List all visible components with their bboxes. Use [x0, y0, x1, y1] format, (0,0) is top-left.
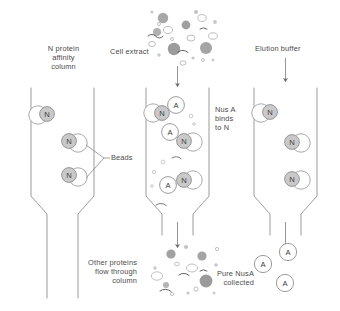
svg-text:N: N	[44, 110, 49, 119]
bead-nusa-complex: N A	[160, 171, 203, 194]
nusa-molecule: A	[254, 255, 271, 272]
collected-nusa-particles: A A A	[254, 243, 296, 291]
nusa-molecule: A	[276, 274, 293, 291]
cell-extract-particles	[148, 10, 217, 65]
column3-title-label: Elution buffer	[255, 44, 335, 53]
column1-title-label: N protein affinity column	[16, 44, 111, 72]
bead-unit: N	[285, 134, 311, 152]
svg-text:N: N	[289, 175, 294, 184]
svg-text:N: N	[66, 137, 71, 146]
svg-text:N: N	[66, 171, 71, 180]
svg-text:N: N	[181, 176, 186, 185]
bead-nusa-complex: N A	[144, 97, 185, 123]
svg-text:N: N	[267, 108, 272, 117]
svg-text:N: N	[289, 138, 294, 147]
collected-label: Pure NusA collected	[188, 269, 254, 287]
bead-unit: N	[62, 168, 88, 187]
column2-beads-with-nusa: N A N A N A	[144, 97, 202, 206]
diagram-canvas: N N N N A N	[0, 0, 340, 311]
beads-label: Beads	[111, 153, 155, 162]
column2-title-label: Cell extract	[110, 47, 170, 56]
bead-unit: N	[29, 106, 55, 124]
svg-text:N: N	[181, 137, 186, 146]
bead-unit: N	[62, 134, 88, 153]
bead-unit: N	[285, 171, 311, 189]
beads-leader-lines	[86, 145, 110, 178]
svg-text:N: N	[159, 109, 164, 118]
flow-through-label: Other proteins flow through column	[34, 258, 137, 286]
nusa-molecule: A	[279, 243, 296, 260]
nusa-binds-label: Nus A binds to N	[215, 105, 263, 133]
bead-nusa-complex: N A	[162, 124, 203, 152]
column1-beads: N N N	[29, 106, 110, 186]
